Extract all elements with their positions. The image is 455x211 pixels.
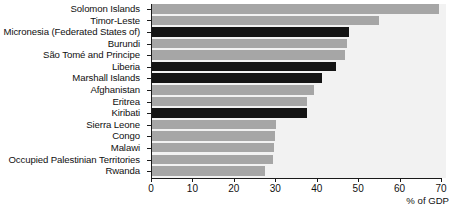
bar-row — [152, 16, 446, 26]
y-axis-tick — [147, 136, 151, 137]
bar-row — [152, 143, 446, 153]
category-label: Timor-Leste — [0, 16, 146, 26]
bar — [152, 97, 307, 107]
category-label: Malawi — [0, 143, 146, 153]
x-axis-tick-label: 0 — [148, 183, 154, 194]
x-axis-spine — [151, 178, 441, 179]
x-axis-title: % of GDP — [406, 195, 449, 206]
bar-series — [152, 4, 446, 178]
bar — [152, 50, 345, 60]
bar — [152, 39, 347, 49]
bar — [152, 108, 307, 118]
category-label: Liberia — [0, 62, 146, 72]
category-label: Burundi — [0, 39, 146, 49]
plot-area — [152, 4, 446, 178]
x-axis-tick — [192, 178, 193, 182]
bar — [152, 27, 349, 37]
y-axis-tick — [147, 171, 151, 172]
x-axis-tick-label: 10 — [187, 183, 198, 194]
category-label: Congo — [0, 131, 146, 141]
x-axis-tick — [441, 178, 442, 182]
bar — [152, 120, 276, 130]
x-axis-tick — [275, 178, 276, 182]
y-axis-spine — [151, 4, 152, 178]
bar — [152, 73, 322, 83]
y-axis-tick — [147, 32, 151, 33]
y-axis-tick — [147, 160, 151, 161]
category-label: Rwanda — [0, 166, 146, 176]
y-axis-tick — [147, 20, 151, 21]
y-axis-tick — [147, 148, 151, 149]
bar-row — [152, 97, 446, 107]
category-label: Marshall Islands — [0, 73, 146, 83]
x-axis-tick-label: 60 — [394, 183, 405, 194]
y-axis-tick — [147, 67, 151, 68]
y-axis-tick — [147, 44, 151, 45]
bar-row — [152, 155, 446, 165]
bar — [152, 4, 439, 14]
y-axis-tick — [147, 113, 151, 114]
bar-row — [152, 108, 446, 118]
x-axis-tick-label: 20 — [228, 183, 239, 194]
x-axis-tick — [151, 178, 152, 182]
bar — [152, 131, 275, 141]
y-axis-tick — [147, 90, 151, 91]
bar-chart: Solomon IslandsTimor-LesteMicronesia (Fe… — [0, 0, 455, 211]
bar-row — [152, 27, 446, 37]
y-axis-tick — [147, 55, 151, 56]
bar-row — [152, 73, 446, 83]
category-label: Occupied Palestinian Territories — [0, 155, 146, 165]
x-axis-tick — [317, 178, 318, 182]
bar — [152, 16, 379, 26]
bar-row — [152, 39, 446, 49]
category-label: Kiribati — [0, 108, 146, 118]
bar-row — [152, 85, 446, 95]
x-axis-tick — [234, 178, 235, 182]
bar-row — [152, 50, 446, 60]
x-axis-tick — [358, 178, 359, 182]
bar-row — [152, 120, 446, 130]
bar — [152, 62, 336, 72]
x-axis-tick — [400, 178, 401, 182]
y-axis-tick — [147, 125, 151, 126]
bar-row — [152, 4, 446, 14]
category-label: Eritrea — [0, 97, 146, 107]
x-axis-tick-label: 40 — [311, 183, 322, 194]
bar — [152, 143, 274, 153]
bar — [152, 85, 314, 95]
category-label: Afghanistan — [0, 85, 146, 95]
bar — [152, 166, 265, 176]
x-axis-tick-label: 30 — [270, 183, 281, 194]
y-axis-tick — [147, 9, 151, 10]
bar-row — [152, 166, 446, 176]
category-label: São Tomé and Principe — [0, 50, 146, 60]
bar — [152, 155, 273, 165]
bar-row — [152, 62, 446, 72]
x-axis-tick-label: 70 — [435, 183, 446, 194]
category-label: Micronesia (Federated States of) — [0, 27, 146, 37]
x-axis-tick-label: 50 — [353, 183, 364, 194]
category-axis-labels: Solomon IslandsTimor-LesteMicronesia (Fe… — [0, 4, 146, 178]
bar-row — [152, 131, 446, 141]
category-label: Solomon Islands — [0, 4, 146, 14]
y-axis-tick — [147, 78, 151, 79]
category-label: Sierra Leone — [0, 120, 146, 130]
y-axis-tick — [147, 102, 151, 103]
